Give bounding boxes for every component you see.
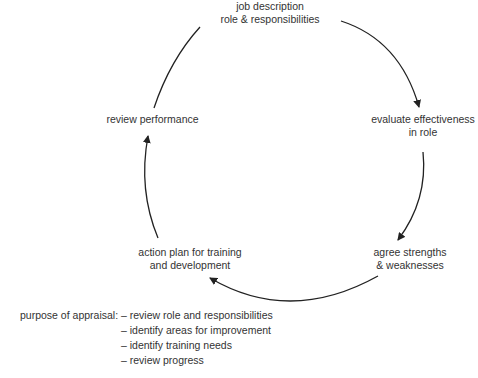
node-text-line: & weaknesses (365, 259, 455, 272)
arrow-job-to-evaluate (341, 21, 419, 107)
node-text-line: evaluate effectiveness (368, 113, 478, 126)
node-text-line: action plan for training (130, 246, 250, 259)
purpose-item: – review role and responsibilities (121, 308, 273, 323)
arrow-evaluate-to-agree (398, 152, 424, 240)
purpose-item: – identify training needs (121, 338, 273, 353)
node-text-line: review performance (100, 113, 205, 126)
arrow-review-to-job (154, 27, 200, 108)
node-text-line: in role (368, 126, 478, 139)
purpose-heading: purpose of appraisal: (20, 308, 118, 323)
node-evaluate-effectiveness: evaluate effectiveness in role (368, 113, 478, 138)
node-text-line: and development (130, 259, 250, 272)
node-review-performance: review performance (100, 113, 205, 126)
purpose-item: – review progress (121, 353, 273, 368)
node-job-description: job description role & responsibilities (190, 0, 350, 25)
purpose-item: – identify areas for improvement (121, 323, 273, 338)
arrow-action-to-review (145, 136, 158, 238)
node-text-line: job description (190, 0, 350, 13)
arrow-agree-to-action (210, 276, 378, 301)
purpose-list: – review role and responsibilities – ide… (121, 308, 273, 368)
node-text-line: role & responsibilities (190, 13, 350, 26)
node-text-line: agree strengths (365, 246, 455, 259)
node-agree-strengths: agree strengths & weaknesses (365, 246, 455, 271)
node-action-plan: action plan for training and development (130, 246, 250, 271)
